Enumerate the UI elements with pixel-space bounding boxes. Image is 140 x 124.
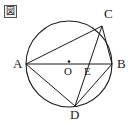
vertex-label-E: E — [84, 65, 91, 78]
vertex-label-B: B — [117, 57, 126, 70]
geometry-figure: 図 A B C D E O — [0, 0, 140, 124]
segment-CB — [102, 26, 112, 64]
vertex-label-D: D — [70, 108, 79, 121]
vertex-label-C: C — [104, 7, 113, 20]
vertex-label-A: A — [13, 57, 22, 70]
center-point-dot — [68, 60, 71, 63]
center-label-O: O — [64, 65, 72, 78]
